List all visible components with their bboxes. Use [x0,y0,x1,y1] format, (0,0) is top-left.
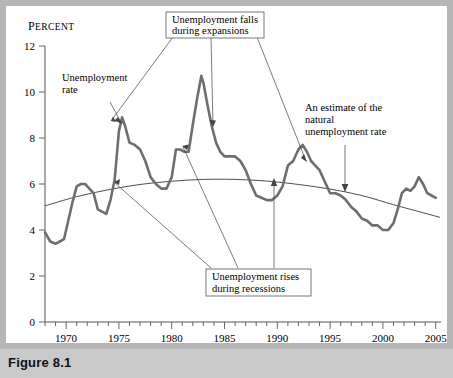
x-tick-label: 2000 [372,332,395,343]
arrowhead-falls-3 [301,154,307,162]
annotation-unemployment-rate[interactable]: Unemployment rate [62,72,127,95]
annotation-rises-recessions[interactable]: Unemployment rises during recessions [206,269,311,296]
unemployment-chart: 024681012 197019751980198519901995200020… [6,6,447,343]
annotation-falls-line2: during expansions [172,25,249,36]
x-tick-label: 1970 [55,332,78,343]
annotation-falls-expansions[interactable]: Unemployment falls during expansions [166,12,264,38]
leader-rises-1 [115,183,211,268]
y-tick-label: 10 [24,86,36,98]
y-tick-label: 2 [30,270,36,282]
x-tick-label: 1980 [161,332,184,343]
figure-container: 024681012 197019751980198519901995200020… [0,0,453,378]
x-tick-label: 2005 [425,332,447,343]
leader-rises-2 [183,147,238,268]
y-tick-label: 8 [30,132,36,144]
chart-panel: 024681012 197019751980198519901995200020… [6,6,447,343]
y-tick-label: 0 [30,316,36,328]
y-tick-label: 12 [24,40,35,52]
annotation-natural-rate[interactable]: An estimate of the natural unemployment … [305,102,387,137]
leader-falls-3 [257,37,306,161]
x-tick-label: 1985 [214,332,237,343]
x-tick-label: 1995 [319,332,342,343]
annotation-unemp-line2: rate [62,84,78,95]
arrowhead-natural-label [342,184,349,192]
y-tick-label: 6 [30,178,36,190]
annotation-natural-line1: An estimate of the [305,102,383,113]
annotation-natural-line3: unemployment rate [305,126,387,137]
annotation-rises-line2: during recessions [212,283,285,294]
leader-falls-2 [211,37,213,126]
y-axis-ticks: 024681012 [24,40,45,328]
figure-caption: Figure 8.1 [8,355,71,370]
annotation-rises-line1: Unemployment rises [212,271,299,282]
x-tick-label: 1990 [266,332,289,343]
annotation-unemp-line1: Unemployment [62,72,127,83]
annotation-falls-line1: Unemployment falls [172,14,258,25]
annotation-leader-lines [110,37,345,268]
x-tick-label: 1975 [108,332,131,343]
x-axis-ticks: 19701975198019851990199520002005 [45,322,447,343]
y-tick-label: 4 [30,224,36,236]
y-axis-title: PERCENT [28,19,74,33]
annotation-natural-line2: natural [305,114,334,125]
